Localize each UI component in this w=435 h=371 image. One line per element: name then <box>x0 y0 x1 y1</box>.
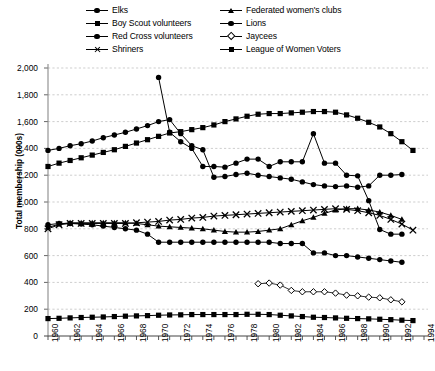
data-point-circle <box>222 174 227 179</box>
data-point-square <box>90 315 95 320</box>
data-point-circle <box>322 160 327 165</box>
data-point-square <box>56 161 61 166</box>
data-point-circle <box>200 164 205 169</box>
data-point-circle <box>322 183 327 188</box>
data-point-circle <box>189 240 194 245</box>
x-tick-label: 1976 <box>228 324 236 342</box>
data-point-square <box>289 110 294 115</box>
data-point-circle <box>78 141 83 146</box>
data-point-circle <box>266 164 271 169</box>
data-point-circle <box>311 250 316 255</box>
data-point-circle <box>366 183 371 188</box>
data-point-square <box>399 139 404 144</box>
x-tick-label: 1986 <box>339 324 347 342</box>
data-point-square <box>244 312 249 317</box>
data-point-circle <box>233 160 238 165</box>
data-point-square <box>134 313 139 318</box>
data-point-circle <box>366 256 371 261</box>
series-lions <box>45 221 404 265</box>
data-point-circle <box>101 223 106 228</box>
data-point-circle <box>300 179 305 184</box>
data-point-circle <box>355 254 360 259</box>
data-point-square <box>377 317 382 322</box>
y-axis-ticks: 02004006008001,0001,2001,4001,6001,8002,… <box>2 0 38 371</box>
data-point-circle <box>56 221 61 226</box>
data-point-square <box>366 316 371 321</box>
data-point-diamond <box>332 290 338 296</box>
data-point-circle <box>355 173 360 178</box>
data-point-circle <box>244 240 249 245</box>
data-point-diamond <box>377 295 383 301</box>
data-point-circle <box>311 131 316 136</box>
data-point-circle <box>222 240 227 245</box>
data-point-circle <box>134 227 139 232</box>
data-point-square <box>388 317 393 322</box>
data-point-circle <box>145 231 150 236</box>
data-point-circle <box>266 240 271 245</box>
data-point-square <box>123 314 128 319</box>
data-point-square <box>322 109 327 114</box>
data-point-circle <box>90 138 95 143</box>
x-tick-label: 1974 <box>206 324 214 342</box>
series-league-of-women-voters <box>45 312 415 323</box>
data-point-circle <box>45 222 50 227</box>
data-point-circle <box>377 227 382 232</box>
data-point-circle <box>333 160 338 165</box>
data-point-circle <box>112 132 117 137</box>
chart-canvas <box>0 0 435 371</box>
x-tick-label: 1980 <box>273 324 281 342</box>
data-point-square <box>90 153 95 158</box>
data-point-circle <box>156 240 161 245</box>
x-tick-label: 1978 <box>251 324 259 342</box>
data-point-square <box>244 114 249 119</box>
data-point-circle <box>266 174 271 179</box>
data-point-square <box>355 316 360 321</box>
data-point-square <box>211 312 216 317</box>
data-point-square <box>112 147 117 152</box>
y-tick-label: 1,400 <box>4 144 38 152</box>
data-point-circle <box>112 225 117 230</box>
data-point-circle <box>355 185 360 190</box>
y-tick-label: 1,000 <box>4 198 38 206</box>
y-tick-label: 0 <box>4 332 38 340</box>
data-point-diamond <box>399 299 405 305</box>
data-point-square <box>145 313 150 318</box>
y-tick-label: 1,600 <box>4 118 38 126</box>
plot-area: Total membership (000s) 02004006008001,0… <box>0 0 435 371</box>
data-point-circle <box>200 240 205 245</box>
data-point-square <box>211 122 216 127</box>
data-point-circle <box>78 221 83 226</box>
data-point-square <box>278 111 283 116</box>
data-point-circle <box>255 156 260 161</box>
data-point-square <box>322 315 327 320</box>
data-point-circle <box>377 173 382 178</box>
data-point-circle <box>399 260 404 265</box>
data-point-square <box>189 312 194 317</box>
data-point-square <box>410 318 415 323</box>
data-point-circle <box>101 135 106 140</box>
data-point-circle <box>145 123 150 128</box>
data-point-circle <box>233 172 238 177</box>
series-jaycees <box>255 280 405 305</box>
x-tick-label: 1990 <box>383 324 391 342</box>
data-point-square <box>300 110 305 115</box>
data-point-circle <box>388 231 393 236</box>
x-tick-label: 1972 <box>184 324 192 342</box>
data-point-circle <box>278 175 283 180</box>
x-tick-label: 1994 <box>428 324 435 342</box>
data-point-diamond <box>277 282 283 288</box>
data-point-square <box>333 315 338 320</box>
data-point-circle <box>45 148 50 153</box>
data-point-square <box>233 116 238 121</box>
data-point-square <box>200 125 205 130</box>
data-point-square <box>355 116 360 121</box>
data-point-circle <box>289 159 294 164</box>
data-point-circle <box>178 139 183 144</box>
data-point-circle <box>344 183 349 188</box>
data-point-square <box>145 137 150 142</box>
data-point-circle <box>388 258 393 263</box>
data-point-square <box>79 155 84 160</box>
data-point-diamond <box>388 297 394 303</box>
data-point-square <box>189 127 194 132</box>
x-tick-label: 1982 <box>295 324 303 342</box>
